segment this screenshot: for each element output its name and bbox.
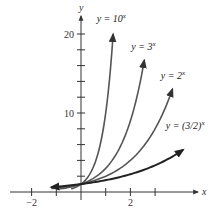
- curve-0: [71, 34, 113, 188]
- curve-3: [51, 150, 183, 187]
- y-axis-label: y: [78, 2, 84, 13]
- curve-label-1: y = 3x: [130, 40, 156, 52]
- curve-label-0: y = 10x: [96, 12, 127, 24]
- x-tick-label: −2: [26, 197, 37, 208]
- curve-labels: y = 10xy = 3xy = 2xy = (3/2)x: [96, 12, 206, 132]
- axes: xy−221020: [10, 2, 207, 208]
- y-tick-label: 10: [64, 108, 74, 119]
- curve-1: [56, 60, 144, 189]
- x-axis-label: x: [201, 186, 207, 197]
- curve-2: [51, 89, 172, 188]
- curve-label-2: y = 2x: [160, 69, 186, 81]
- exponential-functions-chart: xy−221020 y = 10xy = 3xy = 2xy = (3/2)x: [0, 0, 213, 219]
- curve-label-3: y = (3/2)x: [165, 119, 206, 132]
- x-tick-label: 2: [128, 197, 133, 208]
- y-tick-label: 20: [64, 29, 74, 40]
